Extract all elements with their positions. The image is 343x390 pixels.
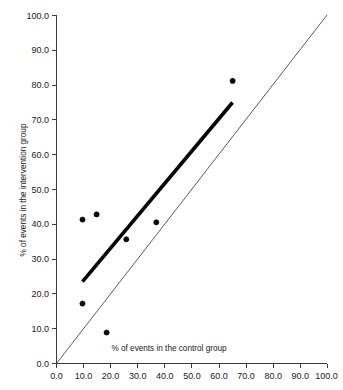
x-axis-title: % of events in the control group	[111, 344, 227, 353]
x-tick-label: 20.0	[102, 371, 120, 381]
x-tick-label: 50.0	[183, 371, 201, 381]
y-tick-label: 50.0	[31, 185, 49, 195]
data-point	[104, 330, 109, 335]
y-tick-label: 10.0	[31, 324, 49, 334]
data-point	[94, 212, 99, 217]
data-point	[124, 237, 129, 242]
scatter-plot-figure: 0.0 10.0 20.0 30.0 40.0 50.0 60.0 70.0 8…	[0, 0, 343, 390]
y-tick-label: 60.0	[31, 150, 49, 160]
plot-background	[0, 0, 343, 390]
y-axis-title: % of events in the intervention group	[19, 123, 28, 256]
y-tick-label: 90.0	[31, 45, 49, 55]
data-point	[154, 220, 159, 225]
x-tick-label: 10.0	[75, 371, 93, 381]
y-tick-label: 30.0	[31, 254, 49, 264]
y-tick-label: 80.0	[31, 80, 49, 90]
y-tick-label: 20.0	[31, 289, 49, 299]
y-tick-label: 100.0	[26, 11, 49, 21]
data-point	[230, 78, 235, 83]
x-tick-label: 0.0	[50, 371, 63, 381]
y-tick-label: 0.0	[36, 359, 49, 369]
x-tick-label: 60.0	[210, 371, 228, 381]
y-tick-label: 40.0	[31, 219, 49, 229]
plot-canvas: 0.0 10.0 20.0 30.0 40.0 50.0 60.0 70.0 8…	[0, 0, 343, 390]
x-tick-label: 100.0	[315, 371, 338, 381]
x-tick-label: 40.0	[156, 371, 174, 381]
x-tick-label: 30.0	[129, 371, 147, 381]
data-point	[80, 301, 85, 306]
x-tick-label: 90.0	[292, 371, 310, 381]
x-tick-label: 80.0	[264, 371, 282, 381]
data-point	[80, 217, 85, 222]
x-tick-label: 70.0	[237, 371, 255, 381]
y-tick-label: 70.0	[31, 115, 49, 125]
